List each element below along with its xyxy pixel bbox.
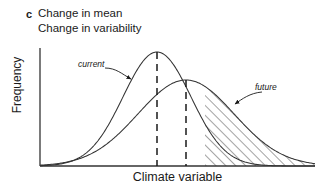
plot-canvas [0,0,320,194]
arrow-current [105,68,131,79]
hatched-tail-region [205,86,315,166]
curve-current [40,52,315,166]
climate-distribution-figure: c Change in mean Change in variability F… [0,0,320,194]
arrow-future [235,92,262,104]
